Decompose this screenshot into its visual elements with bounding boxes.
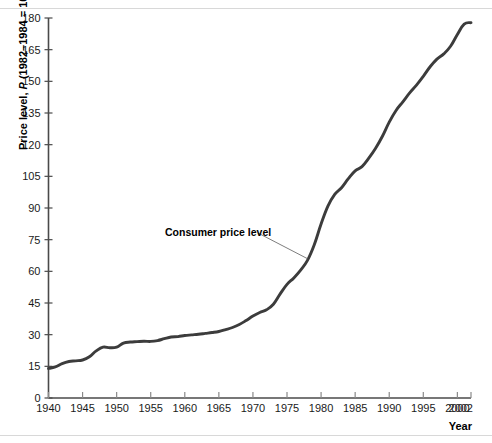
- y-axis-title-suffix: (1982–1984 = 100): [17, 0, 29, 82]
- y-axis-tick-label: 60: [28, 265, 40, 277]
- line-chart: 0153045607590105120135150165180 19401945…: [0, 0, 492, 443]
- y-axis-title-prefix: Price level,: [17, 89, 29, 150]
- consumer-price-level-line: [49, 23, 472, 369]
- x-axis-tick-label: 1955: [138, 402, 162, 414]
- x-axis-tick-label: 1940: [36, 402, 60, 414]
- x-axis-tick-label: 1980: [309, 402, 333, 414]
- annotation-label: Consumer price level: [165, 226, 271, 238]
- x-axis-title: Year: [449, 420, 473, 432]
- figure-container: 0153045607590105120135150165180 19401945…: [0, 0, 492, 443]
- y-axis-tick-label: 75: [28, 234, 40, 246]
- x-axis-tick-label: 1960: [173, 402, 197, 414]
- y-axis-tick-label: 45: [28, 297, 40, 309]
- x-axis-tick-label: 1990: [377, 402, 401, 414]
- y-axis-tick-label: 90: [28, 202, 40, 214]
- y-axis-tick-label: 105: [22, 170, 40, 182]
- x-axis-tick-label: 1970: [241, 402, 265, 414]
- y-axis-tick-label: 30: [28, 329, 40, 341]
- y-axis-tick-label: 15: [28, 360, 40, 372]
- x-axis-tick-label: 2002: [449, 402, 473, 414]
- x-axis-tick-label: 1995: [411, 402, 435, 414]
- x-axis-tick-label: 1985: [343, 402, 367, 414]
- x-axis-tick-label: 1945: [70, 402, 94, 414]
- x-axis-tick-label: 1975: [275, 402, 299, 414]
- x-axis-tick-label: 1965: [207, 402, 231, 414]
- x-axis-ticks: 1940194519501955196019651970197519801985…: [36, 392, 473, 414]
- x-axis: 1940194519501955196019651970197519801985…: [36, 392, 473, 414]
- x-axis-tick-label: 1950: [104, 402, 128, 414]
- y-axis-title: Price level, P (1982–1984 = 100): [17, 0, 29, 150]
